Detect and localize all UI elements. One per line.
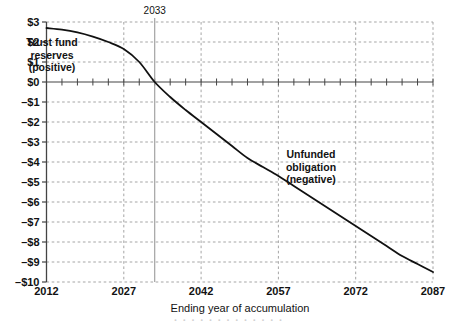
y-tick-label: –$6: [21, 196, 39, 208]
x-tick-label: 2057: [266, 285, 290, 297]
y-tick-label: –$2: [21, 116, 39, 128]
annotation-line: (negative): [286, 173, 336, 185]
chart-svg: $3$2$1$0–$1–$2–$3–$4–$5–$6–$7–$8–$9–$10 …: [0, 0, 456, 327]
x-tick-label: 2087: [421, 285, 445, 297]
crossover-marker-label: 2033: [144, 5, 167, 16]
y-tick-label: –$8: [21, 236, 39, 248]
x-tick-label: 2042: [189, 285, 213, 297]
annotation-line: obligation: [286, 161, 336, 173]
annotation-line: reserves: [30, 49, 73, 61]
annotation-line: (positive): [29, 61, 76, 73]
negative-region-label: Unfundedobligation(negative): [286, 148, 336, 185]
scan-smudge: · · · · · · · · · · · · ·: [173, 312, 283, 327]
y-tick-label: –$5: [21, 176, 39, 188]
annotation-line: Trust fund: [26, 36, 77, 48]
positive-region-label: Trust fundreserves(positive): [26, 36, 77, 73]
y-tick-label: –$7: [21, 216, 39, 228]
y-tick-label: $0: [27, 76, 39, 88]
y-tick-label: –$1: [21, 96, 39, 108]
x-tick-label: 2012: [34, 285, 58, 297]
chart-container: $3$2$1$0–$1–$2–$3–$4–$5–$6–$7–$8–$9–$10 …: [0, 0, 456, 327]
x-tick-label: 2072: [343, 285, 367, 297]
y-tick-label: –$9: [21, 256, 39, 268]
y-tick-label: –$4: [21, 156, 40, 168]
x-tick-label: 2027: [112, 285, 136, 297]
y-tick-label: –$3: [21, 136, 39, 148]
y-tick-label: $3: [27, 16, 39, 28]
crossover-year-text: 2033: [144, 5, 167, 16]
annotation-line: Unfunded: [287, 148, 336, 160]
